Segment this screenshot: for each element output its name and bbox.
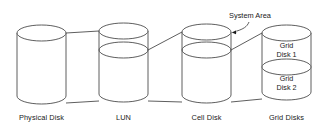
cylinder-physical-disk xyxy=(17,25,66,104)
grid-disk-1-line1: Grid xyxy=(277,41,297,50)
system-area-callout-arrow xyxy=(232,22,249,34)
cell-disk-top-ellipse xyxy=(182,24,231,40)
cell-disk-body xyxy=(182,32,231,103)
grid-disk-2-line1: Grid xyxy=(277,74,297,83)
physical-disk-body xyxy=(17,33,66,104)
connector-cell-to-grid-top xyxy=(231,33,262,50)
connector-physical-to-lun-bottom xyxy=(66,101,99,103)
lun-top-ellipse xyxy=(99,23,148,39)
connector-lun-to-cell-top xyxy=(148,32,182,50)
connector-cell-to-grid-bottom xyxy=(231,99,262,102)
connector-lun-to-cell-bottom xyxy=(148,101,182,102)
grid-disk-2-label: Grid Disk 2 xyxy=(277,74,297,92)
diagram-canvas: Grid Disk 1 Grid Disk 2 System Area Phys… xyxy=(0,0,331,136)
caption-grid-disks: Grid Disks xyxy=(269,113,304,122)
cylinder-cell-disk xyxy=(182,24,231,103)
system-area-callout-label: System Area xyxy=(229,11,271,20)
grid-disk-1-label: Grid Disk 1 xyxy=(277,41,297,59)
connector-physical-to-lun-top xyxy=(66,31,99,33)
callout-leader-line xyxy=(237,22,249,31)
caption-lun: LUN xyxy=(116,113,131,122)
grid-disk-1-line2: Disk 1 xyxy=(277,50,297,59)
physical-disk-top-ellipse xyxy=(17,25,66,41)
cylinder-lun xyxy=(99,23,148,102)
callout-arrowhead xyxy=(232,30,237,34)
caption-physical-disk: Physical Disk xyxy=(19,113,64,122)
grid-disk-divider-ellipse xyxy=(262,59,311,75)
grid-disk-2-line2: Disk 2 xyxy=(277,83,297,92)
caption-cell-disk: Cell Disk xyxy=(191,113,221,122)
grid-disks-top-ellipse xyxy=(262,25,311,41)
